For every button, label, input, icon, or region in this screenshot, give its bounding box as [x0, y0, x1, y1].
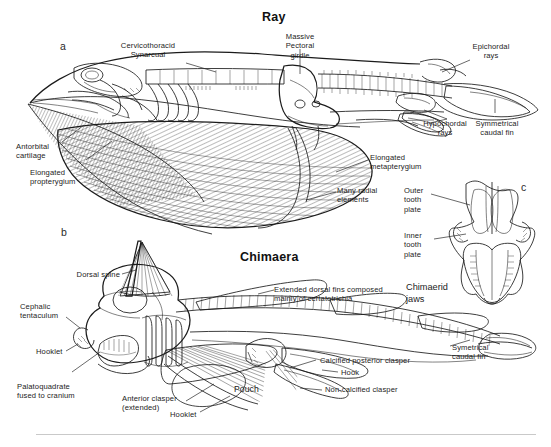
- anatomical-figure: Ray Chimaera a b c Cervicothoracid Synar…: [0, 0, 551, 447]
- label-inner-tooth-plate: Inner tooth plate: [404, 231, 444, 259]
- label-symmetrical-caudal-fin: Symmetrical caudal fin: [462, 119, 532, 138]
- label-hook: Hook: [341, 368, 371, 377]
- chimaera-title: Chimaera: [240, 250, 299, 264]
- panel-letter-b: b: [61, 226, 67, 238]
- label-epichordal-rays: Epichordal rays: [458, 42, 524, 61]
- label-elongated-metapterygium: Elongated metapterygium: [370, 153, 456, 172]
- label-hooklet-lower: Hooklet: [170, 410, 214, 419]
- bottom-divider: [36, 434, 536, 435]
- label-elongated-propterygium: Elongated propterygium: [30, 168, 102, 187]
- label-calcified-posterior-clasper: Calcified posterior clasper: [320, 356, 446, 365]
- panel-letter-c: c: [521, 181, 526, 193]
- ray-title: Ray: [262, 10, 286, 24]
- label-chimaerid-jaws: Chimaerid jaws: [406, 282, 468, 305]
- label-palatoquadrate-fused-to-cranium: Palatoquadrate fused to cranium: [17, 382, 101, 401]
- panel-letter-a: a: [60, 40, 66, 52]
- label-hooklet-upper: Hooklet: [36, 347, 78, 356]
- label-many-radial-elements: Many radial elements: [337, 186, 399, 205]
- figure-artwork: [0, 0, 551, 447]
- label-massive-pectoral-girdle: Massive Pectoral girdle: [268, 32, 332, 60]
- label-cephalic-tentaculum: Cephalic tentaculum: [20, 302, 82, 321]
- label-dorsal-spine: Dorsal spine: [58, 270, 120, 279]
- label-cervicothoracic-synarcual: Cervicothoracid Synarcual: [104, 41, 192, 60]
- label-pouch: Pouch: [234, 385, 268, 394]
- label-antorbital-cartilage: Antorbital cartilage: [16, 142, 78, 161]
- label-extended-dorsal-fins: Extended dorsal fins composed mainly of …: [274, 285, 410, 304]
- label-symetrical-caudal-fin: Symetrical caudal fin: [452, 343, 520, 362]
- label-outer-tooth-plate: Outer tooth plate: [404, 186, 444, 214]
- label-non-calcified-clasper: Non-calcified clasper: [325, 385, 429, 394]
